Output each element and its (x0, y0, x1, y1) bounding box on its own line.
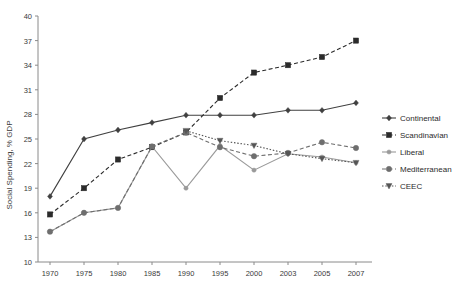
data-point-marker (387, 115, 392, 121)
legend-label: Continental (400, 114, 441, 123)
y-tick-label: 40 (24, 12, 32, 21)
x-tick-label: 2000 (246, 269, 263, 278)
data-point-marker (353, 38, 358, 43)
data-point-marker (149, 144, 154, 149)
series-line (50, 41, 356, 215)
data-point-marker (319, 54, 324, 59)
data-point-marker (252, 168, 256, 172)
y-tick-label: 10 (24, 258, 32, 267)
legend-label: Liberal (400, 148, 424, 157)
y-tick-label: 13 (24, 233, 32, 242)
legend-label: CEEC (400, 182, 422, 191)
data-point-marker (251, 143, 257, 148)
y-tick-label: 28 (24, 110, 32, 119)
series-line (50, 146, 356, 232)
x-tick-label: 2003 (280, 269, 297, 278)
legend-item-liberal[interactable]: Liberal (382, 148, 424, 157)
data-point-marker (150, 120, 155, 126)
legend-item-ceec[interactable]: CEEC (382, 182, 422, 191)
data-point-marker (115, 205, 120, 210)
data-point-marker (115, 157, 120, 162)
legend-label: Scandinavian (400, 131, 448, 140)
y-tick-label: 16 (24, 209, 32, 218)
series-line (50, 103, 356, 196)
data-point-marker (285, 63, 290, 68)
data-point-marker (217, 145, 222, 150)
data-point-marker (47, 212, 52, 217)
x-tick-label: 1990 (178, 269, 195, 278)
legend-item-continental[interactable]: Continental (382, 114, 441, 123)
data-point-marker (47, 229, 52, 234)
series-scandinavian (47, 38, 358, 217)
data-point-marker (81, 186, 86, 191)
data-point-marker (116, 127, 121, 133)
data-point-marker (387, 150, 391, 154)
y-tick-label: 19 (24, 184, 32, 193)
y-tick-label: 31 (24, 86, 32, 95)
legend-item-scandinavian[interactable]: Scandinavian (382, 131, 448, 140)
x-tick-label: 2007 (348, 269, 365, 278)
data-point-marker (319, 156, 325, 161)
x-tick-label: 1985 (144, 269, 161, 278)
data-point-marker (319, 140, 324, 145)
data-point-marker (218, 112, 223, 118)
data-point-marker (251, 70, 256, 75)
data-point-marker (217, 95, 222, 100)
data-point-marker (184, 112, 189, 118)
y-tick-label: 22 (24, 160, 32, 169)
y-tick-label: 34 (24, 61, 32, 70)
data-point-marker (386, 166, 391, 171)
series-ceec (183, 128, 359, 165)
legend-label: Mediterranean (400, 165, 452, 174)
data-point-marker (386, 184, 392, 189)
x-tick-label: 1975 (76, 269, 93, 278)
series-mediterranean (47, 130, 358, 235)
data-point-marker (251, 154, 256, 159)
data-point-marker (184, 186, 188, 190)
series-liberal (48, 143, 358, 233)
x-tick-label: 1995 (212, 269, 229, 278)
data-point-marker (81, 210, 86, 215)
line-chart: 4037343128252219161310197019751980198519… (0, 0, 466, 291)
data-point-marker (252, 112, 257, 118)
x-tick-label: 1970 (42, 269, 59, 278)
y-axis-title: Social Spending, % GDP (5, 121, 14, 210)
series-line (50, 132, 356, 231)
data-point-marker (354, 100, 359, 106)
data-point-marker (386, 132, 391, 137)
chart-container: 4037343128252219161310197019751980198519… (0, 0, 466, 291)
legend-item-mediterranean[interactable]: Mediterranean (382, 165, 452, 174)
x-tick-label: 1980 (110, 269, 127, 278)
x-tick-label: 2005 (314, 269, 331, 278)
data-point-marker (353, 145, 358, 150)
data-point-marker (320, 107, 325, 113)
y-tick-label: 25 (24, 135, 32, 144)
y-tick-label: 37 (24, 37, 32, 46)
data-point-marker (286, 107, 291, 113)
